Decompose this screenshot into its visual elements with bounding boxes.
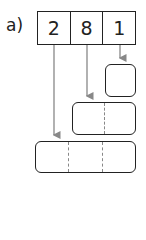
- answer-box-ones[interactable]: [105, 64, 136, 97]
- box-part[interactable]: [106, 65, 135, 96]
- box-part[interactable]: [105, 103, 136, 134]
- answer-box-tens[interactable]: [72, 102, 136, 135]
- answer-box-hundreds[interactable]: [35, 141, 136, 173]
- box-part[interactable]: [103, 142, 135, 172]
- box-part[interactable]: [73, 103, 105, 134]
- box-part[interactable]: [36, 142, 69, 172]
- box-part[interactable]: [69, 142, 102, 172]
